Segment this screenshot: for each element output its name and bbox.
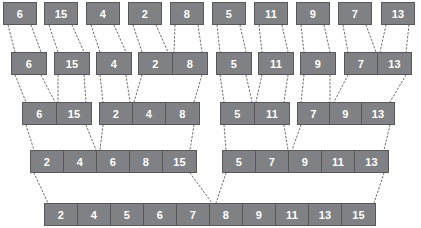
connector-line — [26, 125, 34, 150]
array-cell: 15 — [163, 151, 196, 172]
array-block: 15 — [44, 2, 78, 25]
array-cell: 8 — [173, 53, 207, 74]
connector-line — [100, 75, 103, 102]
connector-line — [15, 75, 26, 102]
array-cell: 7 — [298, 103, 330, 124]
array-block: 9 — [300, 52, 336, 75]
array-cell: 6 — [144, 204, 177, 225]
connector-line — [114, 25, 126, 52]
array-cell: 2 — [45, 204, 78, 225]
array-block: 15 — [54, 52, 90, 75]
array-block: 246815 — [30, 150, 197, 173]
array-cell: 11 — [276, 204, 309, 225]
array-cell: 15 — [342, 204, 375, 225]
array-block: 5 — [216, 52, 252, 75]
array-cell: 5 — [111, 204, 144, 225]
array-cell: 13 — [382, 3, 414, 24]
connector-line — [86, 125, 96, 150]
connector-line — [190, 173, 212, 203]
array-cell: 7 — [345, 53, 378, 74]
array-cell: 4 — [78, 204, 111, 225]
array-cell: 9 — [289, 151, 322, 172]
array-block: 713 — [344, 52, 412, 75]
connector-line — [133, 25, 142, 52]
array-cell: 6 — [97, 151, 130, 172]
array-block: 11 — [254, 2, 288, 25]
array-block: 13 — [381, 2, 415, 25]
connector-line — [224, 125, 226, 150]
array-cell: 2 — [129, 3, 161, 24]
array-block: 248 — [99, 102, 200, 125]
array-cell: 13 — [378, 53, 411, 74]
array-block: 615 — [22, 102, 92, 125]
array-cell: 2 — [31, 151, 64, 172]
array-block: 11 — [258, 52, 294, 75]
array-cell: 11 — [259, 53, 293, 74]
connector-line — [284, 75, 288, 102]
connector-line — [100, 125, 103, 150]
connector-line — [91, 25, 100, 52]
connector-line — [84, 75, 86, 102]
array-cell: 8 — [130, 151, 163, 172]
array-block: 6 — [3, 2, 37, 25]
connector-line — [194, 75, 202, 102]
connector-line — [134, 75, 142, 102]
connector-line — [31, 25, 41, 52]
array-cell: 15 — [55, 53, 89, 74]
array-block: 7913 — [297, 102, 395, 125]
connector-line — [216, 173, 226, 203]
connector-line — [384, 125, 390, 150]
array-cell: 6 — [23, 103, 57, 124]
array-cell: 4 — [133, 103, 166, 124]
array-block: 2 — [128, 2, 162, 25]
connector-line — [156, 25, 168, 52]
merge-sort-diagram: 6154285119713615428511971361524851179132… — [0, 0, 421, 228]
connector-line — [49, 25, 58, 52]
array-block: 6 — [11, 52, 47, 75]
connector-line — [324, 25, 330, 52]
array-cell: 7 — [177, 204, 210, 225]
array-block: 8 — [170, 2, 204, 25]
array-cell: 7 — [256, 151, 289, 172]
connector-line — [256, 75, 262, 102]
connector-line — [34, 173, 48, 203]
connector-line — [390, 75, 406, 102]
connector-line — [41, 75, 55, 102]
array-cell: 4 — [64, 151, 97, 172]
array-cell: 8 — [166, 103, 199, 124]
connector-line — [198, 25, 202, 52]
array-cell: 6 — [4, 3, 36, 24]
connector-line — [343, 25, 348, 52]
connector-line — [374, 173, 384, 203]
array-block: 4 — [96, 52, 132, 75]
connector-line — [380, 25, 386, 52]
array-cell: 5 — [223, 151, 256, 172]
array-block: 5 — [212, 2, 246, 25]
array-cell: 8 — [171, 3, 203, 24]
connector-line — [301, 75, 304, 102]
array-block: 4 — [86, 2, 120, 25]
connector-line — [406, 25, 409, 52]
connector-line — [301, 25, 304, 52]
array-block: 7 — [338, 2, 372, 25]
connector-line — [284, 125, 288, 150]
connector-line — [282, 25, 288, 52]
connector-line — [334, 75, 348, 102]
array-cell: 13 — [309, 204, 342, 225]
array-cell: 8 — [210, 204, 243, 225]
array-cell: 5 — [221, 103, 255, 124]
array-cell: 11 — [322, 151, 355, 172]
array-cell: 11 — [255, 3, 287, 24]
array-cell: 9 — [301, 53, 335, 74]
connector-line — [72, 25, 84, 52]
connector-line — [240, 25, 246, 52]
array-cell: 2 — [100, 103, 133, 124]
array-cell: 9 — [330, 103, 362, 124]
connector-line — [190, 125, 194, 150]
array-cell: 15 — [57, 103, 91, 124]
connector-line — [126, 75, 130, 102]
array-cell: 5 — [217, 53, 251, 74]
connector-line — [174, 25, 175, 52]
array-cell: 13 — [362, 103, 394, 124]
array-block: 511 — [220, 102, 290, 125]
